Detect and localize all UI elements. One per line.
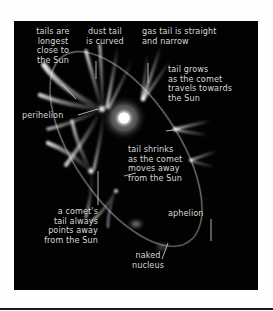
page-canvas: tails are longest close to the Sun dust … [0, 0, 273, 311]
comet-inbound-upper [139, 47, 170, 103]
label-gas-tail: gas tail is straight and narrow [142, 27, 258, 46]
label-perihelion: perihelion [22, 111, 80, 121]
page-bottom-rule [0, 308, 273, 310]
label-dust-tail: dust tail is curved [70, 27, 140, 46]
label-comet-tail-away: a comet's tail always points away from t… [22, 207, 98, 245]
comet-diagram-panel: tails are longest close to the Sun dust … [14, 21, 258, 290]
label-tail-grows: tail grows as the comet travels towards … [168, 65, 258, 103]
label-aphelion: aphelion [168, 209, 228, 219]
label-naked-nucleus: naked nucleus [120, 251, 176, 270]
label-tail-shrinks: tail shrinks as the comet moves away fro… [128, 145, 224, 183]
comet-faint-nucleus [131, 221, 167, 249]
